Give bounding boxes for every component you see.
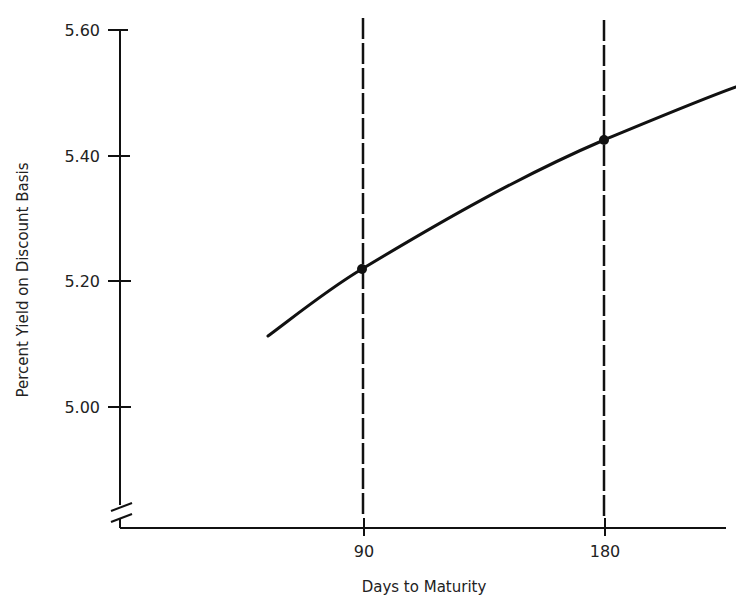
x-axis-title: Days to Maturity — [362, 578, 487, 596]
yield-curve-line — [268, 87, 736, 336]
y-tick-label: 5.40 — [64, 147, 100, 166]
data-point-90 — [357, 264, 367, 274]
yield-curve-chart: 5.60 5.40 5.20 5.00 90 180 Days to Matur… — [0, 0, 736, 596]
x-tick-label: 180 — [590, 542, 621, 561]
y-axis-title: Percent Yield on Discount Basis — [14, 162, 32, 397]
axis-break-icon — [111, 503, 132, 522]
y-tick-label: 5.00 — [64, 398, 100, 417]
y-tick-label: 5.20 — [64, 272, 100, 291]
x-tick-label: 90 — [354, 542, 374, 561]
y-tick-label: 5.60 — [64, 21, 100, 40]
data-point-180 — [599, 135, 609, 145]
